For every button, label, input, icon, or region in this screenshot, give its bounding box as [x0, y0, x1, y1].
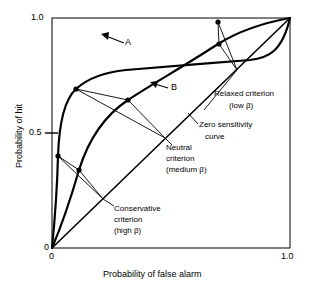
marker-b-relaxed [216, 41, 221, 46]
callout-neutral-line2: criterion [166, 155, 194, 163]
curve-label-b: B [171, 83, 177, 92]
y-tick-label-1.0: 1.0 [31, 13, 44, 22]
roc-figure: 1.0 0.5 0 0 1.0 Probability of hit Proba… [0, 0, 309, 292]
callout-zero-sensitivity-line2: curve [205, 133, 225, 141]
callout-zero-sensitivity-line1: Zero sensitivity [199, 121, 252, 129]
marker-a-relaxed [215, 19, 220, 24]
callout-relaxed-line1: Relaxed criterion [214, 90, 274, 98]
curve-label-a: A [125, 38, 131, 47]
x-axis-title: Probability of false alarm [103, 270, 202, 279]
y-axis-title: Probability of hit [15, 104, 24, 168]
callout-neutral-line1: Neutral [166, 144, 192, 152]
callout-relaxed-line2: (low β) [229, 102, 253, 110]
marker-b-conservative [76, 167, 81, 172]
x-tick-label-1.0: 1.0 [281, 252, 294, 261]
marker-a-neutral [73, 86, 78, 91]
callout-conservative-line2: criterion [114, 216, 142, 224]
marker-b-neutral [125, 97, 130, 102]
x-tick-label-0: 0 [49, 252, 54, 261]
callout-conservative-line3: (high β) [114, 227, 141, 235]
callout-neutral-line3: (medium β) [166, 166, 207, 174]
callout-conservative-line1: Conservative [114, 205, 161, 213]
y-tick-label-0.5: 0.5 [29, 128, 42, 137]
marker-a-conservative [55, 153, 60, 158]
